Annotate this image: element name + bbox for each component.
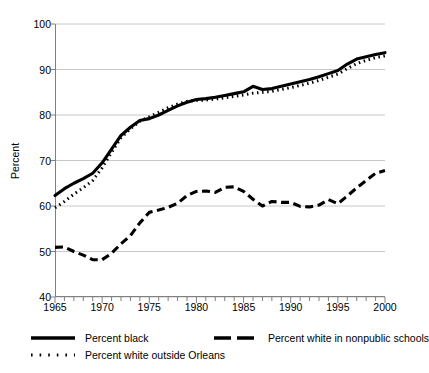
y-tick-label: 100 [21,19,51,29]
x-axis-tick-labels: 19651970197519801985199019952000 [55,302,385,316]
series-line-1 [55,56,385,208]
x-tick-label: 1985 [222,302,266,313]
y-tick-label: 90 [21,65,51,75]
legend-swatch-dotted [30,349,76,361]
plot-svg [55,24,385,297]
legend-label-percent-white-outside-orleans: Percent white outside Orleans [85,349,225,361]
legend-entry-percent-white-outside-orleans: Percent white outside Orleans [30,349,225,361]
y-tick-label: 70 [21,156,51,166]
legend-swatch-solid [30,332,76,344]
y-tick-label: 50 [21,247,51,257]
x-tick-label: 2000 [363,302,407,313]
y-tick-label: 80 [21,110,51,120]
legend-swatch-dashed [213,332,259,344]
x-tick-label: 1990 [269,302,313,313]
series-line-0 [55,53,385,196]
y-axis-tick-labels: 100908070605040 [18,24,51,297]
series-line-2 [55,171,385,260]
legend-entry-percent-black: Percent black [30,332,149,344]
x-tick-label: 1995 [316,302,360,313]
x-tick-label: 1975 [127,302,171,313]
legend-label-percent-white-nonpublic: Percent white in nonpublic schools [268,332,429,344]
legend: Percent black Percent white outside Orle… [0,329,419,373]
x-tick-label: 1970 [80,302,124,313]
x-tick-label: 1965 [33,302,77,313]
x-tick-label: 1980 [174,302,218,313]
plot-area [55,24,385,297]
legend-entry-percent-white-nonpublic: Percent white in nonpublic schools [213,332,429,344]
legend-label-percent-black: Percent black [85,332,149,344]
y-tick-label: 60 [21,201,51,211]
